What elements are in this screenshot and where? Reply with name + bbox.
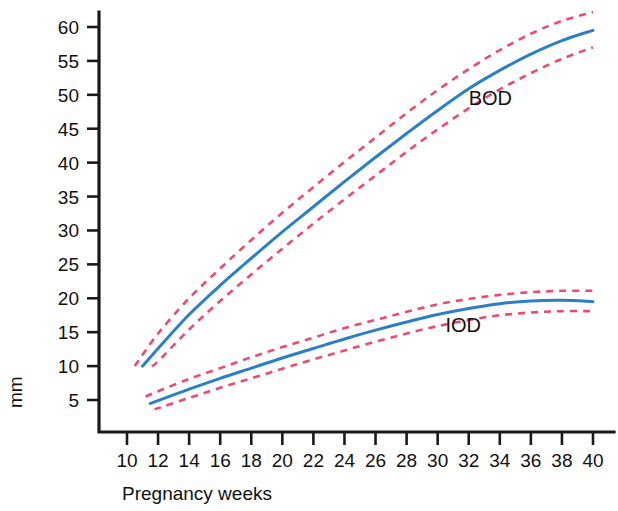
series-curve-bod-lower-limit [152, 47, 593, 366]
y-tick-label: 25 [58, 254, 79, 275]
y-tick-label: 45 [58, 119, 79, 140]
x-axis-title: Pregnancy weeks [122, 483, 272, 504]
data-series-layer [135, 12, 593, 409]
x-tick-label: 40 [582, 450, 603, 471]
y-axis-tick-labels: 51015202530354045505560 [58, 17, 79, 411]
curve-annotations: BODIOD [445, 87, 512, 336]
curve-label-bod: BOD [469, 87, 512, 109]
x-tick-label: 30 [427, 450, 448, 471]
x-tick-label: 20 [272, 450, 293, 471]
x-tick-label: 14 [179, 450, 201, 471]
x-tick-label: 28 [396, 450, 417, 471]
chart-canvas: 51015202530354045505560 1012141618202224… [0, 0, 618, 511]
x-tick-label: 12 [147, 450, 168, 471]
x-tick-label: 38 [551, 450, 572, 471]
x-tick-label: 32 [458, 450, 479, 471]
x-tick-label: 10 [116, 450, 137, 471]
axes [87, 12, 614, 445]
x-axis-tick-labels: 10121416182022242628303234363840 [116, 450, 603, 471]
orbital-growth-chart: 51015202530354045505560 1012141618202224… [0, 0, 618, 511]
x-tick-label: 36 [520, 450, 541, 471]
x-tick-label: 24 [334, 450, 356, 471]
axis-lines [99, 12, 614, 432]
y-tick-label: 10 [58, 356, 79, 377]
x-tick-label: 16 [210, 450, 231, 471]
x-tick-label: 18 [241, 450, 262, 471]
x-tick-label: 34 [489, 450, 511, 471]
y-tick-label: 35 [58, 187, 79, 208]
y-tick-label: 55 [58, 51, 79, 72]
y-tick-label: 60 [58, 17, 79, 38]
y-tick-label: 50 [58, 85, 79, 106]
y-tick-label: 40 [58, 153, 79, 174]
y-axis-title: mm [5, 376, 26, 408]
y-tick-label: 20 [58, 288, 79, 309]
x-tick-label: 22 [303, 450, 324, 471]
y-tick-label: 15 [58, 322, 79, 343]
series-curve-iod-lower-limit [155, 311, 593, 409]
y-tick-label: 5 [68, 390, 79, 411]
curve-label-iod: IOD [445, 314, 481, 336]
series-curve-bod [143, 30, 593, 366]
x-tick-label: 26 [365, 450, 386, 471]
y-axis-tick-marks [87, 27, 99, 400]
x-axis-tick-marks [127, 432, 593, 445]
y-tick-label: 30 [58, 220, 79, 241]
